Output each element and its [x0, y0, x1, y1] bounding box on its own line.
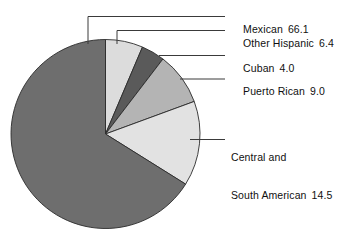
pie-slices-group: [11, 40, 200, 229]
pie-label-central-south-american-line2: South American: [231, 189, 307, 201]
pie-label-other-hispanic-name: Other Hispanic: [243, 37, 314, 49]
pie-label-central-south-american-line1: Central and: [231, 151, 332, 164]
pie-label-central-south-american-value: 14.5: [312, 189, 333, 201]
pie-label-central-south-american-line2-wrap: South American14.5: [231, 189, 332, 202]
pie-label-central-south-american: Central and South American14.5: [231, 126, 332, 227]
pie-label-puerto-rican: Puerto Rican9.0: [231, 73, 325, 111]
leader-line-other-hispanic: [117, 31, 225, 45]
pie-label-puerto-rican-value: 9.0: [310, 85, 325, 97]
pie-label-puerto-rican-name: Puerto Rican: [243, 85, 305, 97]
pie-label-other-hispanic-value: 6.4: [319, 37, 334, 49]
pie-chart-figure: Mexican66.1 Other Hispanic6.4 Cuban4.0 P…: [0, 0, 343, 242]
